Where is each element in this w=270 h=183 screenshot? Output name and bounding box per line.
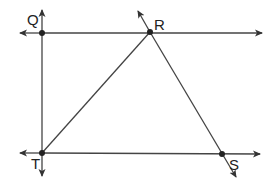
point-R xyxy=(147,29,153,35)
label-R: R xyxy=(154,16,165,33)
point-S xyxy=(219,151,225,157)
segment-TR xyxy=(42,32,150,153)
point-Q xyxy=(39,30,45,36)
line-TS xyxy=(42,153,260,154)
label-S: S xyxy=(229,156,239,173)
label-Q: Q xyxy=(27,11,39,28)
geometry-diagram: Q R T S xyxy=(0,0,270,183)
label-T: T xyxy=(31,155,40,172)
line-RS-up xyxy=(138,11,150,32)
